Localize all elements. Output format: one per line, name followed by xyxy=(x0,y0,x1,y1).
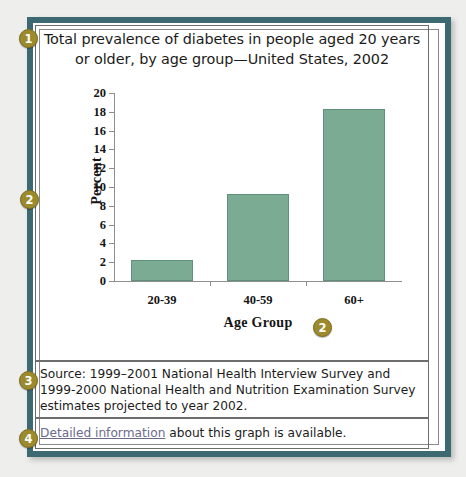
y-axis-tick-mark xyxy=(109,243,114,244)
callout-badge-3: 3 xyxy=(19,371,38,390)
detailed-information-link[interactable]: Detailed information xyxy=(40,426,165,440)
y-axis-tick-mark xyxy=(109,93,114,94)
detail-line-tail: about this graph is available. xyxy=(165,426,346,440)
callout-badge-2-x-axis: 2 xyxy=(313,318,332,337)
y-axis-tick-label: 18 xyxy=(94,104,107,119)
bar-chart: Percent 0246810121416182020-3940-5960+ A… xyxy=(35,87,429,355)
x-axis-tick-mark xyxy=(210,281,211,286)
page-title: Total prevalence of diabetes in people a… xyxy=(41,29,423,69)
y-axis-tick-mark xyxy=(109,168,114,169)
bar-40-59 xyxy=(227,194,289,281)
x-axis-tick-label: 20-39 xyxy=(147,293,176,308)
callout-badge-2-y-axis: 2 xyxy=(20,190,39,209)
bar-60+ xyxy=(323,109,385,281)
x-axis-tick-mark xyxy=(306,281,307,286)
x-axis-title: Age Group xyxy=(114,315,402,331)
y-axis-tick-label: 8 xyxy=(100,198,106,213)
bar-20-39 xyxy=(131,260,193,281)
figure-card: Total prevalence of diabetes in people a… xyxy=(35,25,444,449)
y-axis-tick-label: 14 xyxy=(94,142,107,157)
y-axis-tick-label: 16 xyxy=(94,123,107,138)
source-note: Source: 1999–2001 National Health Interv… xyxy=(40,366,422,415)
detail-line: Detailed information about this graph is… xyxy=(40,425,422,441)
y-axis-tick-label: 10 xyxy=(94,180,107,195)
callout-badge-1: 1 xyxy=(19,29,38,48)
y-axis-tick-label: 6 xyxy=(100,217,106,232)
y-axis-tick-label: 2 xyxy=(100,255,106,270)
callout-badge-4: 4 xyxy=(19,429,38,448)
y-axis-tick-mark xyxy=(109,187,114,188)
y-axis-tick-mark xyxy=(109,112,114,113)
y-axis-tick-label: 20 xyxy=(94,86,107,101)
y-axis-tick-label: 4 xyxy=(100,236,106,251)
y-axis-line xyxy=(114,93,115,281)
x-axis-tick-label: 40-59 xyxy=(243,293,272,308)
y-axis-tick-mark xyxy=(109,206,114,207)
y-axis-tick-mark xyxy=(109,281,114,282)
y-axis-tick-label: 0 xyxy=(100,274,106,289)
y-axis-tick-mark xyxy=(109,149,114,150)
y-axis-tick-mark xyxy=(109,131,114,132)
y-axis-tick-mark xyxy=(109,262,114,263)
x-axis-line xyxy=(114,281,402,282)
x-axis-tick-label: 60+ xyxy=(344,293,364,308)
y-axis-tick-label: 12 xyxy=(94,161,107,176)
y-axis-tick-mark xyxy=(109,225,114,226)
plot-area: 0246810121416182020-3940-5960+ xyxy=(114,93,402,281)
